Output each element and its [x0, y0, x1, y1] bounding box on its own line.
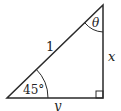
- angle-45-label: 45°: [23, 83, 44, 97]
- theta-label: θ: [92, 16, 100, 30]
- y-label: y: [53, 98, 62, 111]
- x-label: x: [108, 49, 116, 64]
- hypotenuse-label: 1: [46, 39, 54, 54]
- right-angle-marker: [96, 91, 103, 98]
- right-triangle-diagram: 1 θ x 45° y: [0, 0, 121, 111]
- triangle: [7, 5, 103, 98]
